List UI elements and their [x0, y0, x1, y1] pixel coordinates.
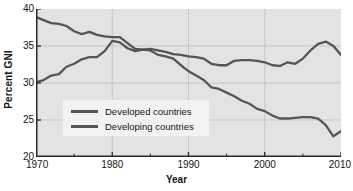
- chart-container: Percent GNI 2025303540 Developed countri…: [0, 0, 353, 191]
- y-tick-label-25: 25: [14, 115, 34, 125]
- x-tick-label-1990: 1990: [177, 159, 199, 170]
- x-tick-label-1970: 1970: [26, 159, 48, 170]
- x-tick-label-1980: 1980: [101, 159, 123, 170]
- legend-line-swatch-developing: [71, 125, 98, 128]
- legend-label-developed: Developed countries: [105, 106, 192, 117]
- y-tick-label-30: 30: [14, 78, 34, 88]
- y-tick-label-40: 40: [14, 4, 34, 14]
- x-axis-tick-labels: 19701980199020002010: [0, 159, 353, 173]
- x-tick-label-2000: 2000: [254, 159, 276, 170]
- legend-line-swatch-developed: [71, 110, 98, 113]
- y-tick-label-35: 35: [14, 41, 34, 51]
- legend-item-developing: Developing countries: [71, 119, 194, 133]
- y-axis-tick-labels: 2025303540: [12, 0, 34, 158]
- legend-item-developed: Developed countries: [71, 104, 192, 118]
- x-tick-label-2010: 2010: [329, 159, 351, 170]
- legend-label-developing: Developing countries: [105, 121, 194, 132]
- chart-legend: Developed countries Developing countries: [63, 100, 209, 136]
- x-axis-title: Year: [0, 174, 353, 185]
